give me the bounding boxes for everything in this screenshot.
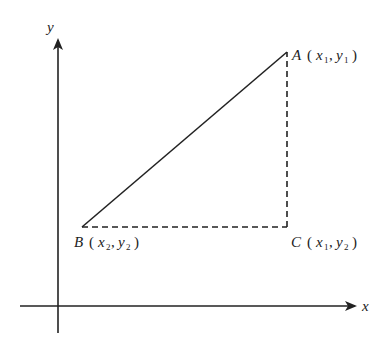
point-A-close-paren: ) (352, 47, 357, 64)
point-B-y: y (116, 234, 125, 250)
point-C-label: C ( x 1 , y 2 ) (291, 234, 357, 252)
point-A-open-paren: ( (307, 47, 312, 64)
point-B-x-sub: 2 (106, 242, 111, 252)
point-B-x: x (97, 234, 105, 250)
point-B-open-paren: ( (89, 234, 94, 251)
x-axis-label: x (361, 298, 369, 314)
point-B-name: B (74, 234, 83, 250)
point-A-label: A ( x 1 , y 1 ) (291, 47, 357, 65)
y-axis-label: y (45, 19, 54, 35)
point-B-label: B ( x 2 , y 2 ) (74, 234, 139, 252)
point-C-x: x (315, 234, 323, 250)
point-C-open-paren: ( (307, 234, 312, 251)
point-A-y-sub: 1 (344, 55, 349, 65)
point-A-y: y (334, 47, 343, 63)
point-C-comma: , (329, 234, 333, 250)
point-C-y-sub: 2 (344, 242, 349, 252)
point-C-y: y (334, 234, 343, 250)
coordinate-diagram: y x A ( x 1 , y 1 ) B ( x 2 , y 2 ) C ( … (0, 0, 386, 351)
point-B-close-paren: ) (134, 234, 139, 251)
point-C-x-sub: 1 (324, 242, 329, 252)
point-A-name: A (291, 47, 302, 63)
point-B-comma: , (111, 234, 115, 250)
point-C-name: C (291, 234, 302, 250)
point-A-x-sub: 1 (324, 55, 329, 65)
segment-BA (82, 52, 287, 227)
point-A-comma: , (329, 47, 333, 63)
point-A-x: x (315, 47, 323, 63)
point-B-y-sub: 2 (126, 242, 131, 252)
point-C-close-paren: ) (352, 234, 357, 251)
